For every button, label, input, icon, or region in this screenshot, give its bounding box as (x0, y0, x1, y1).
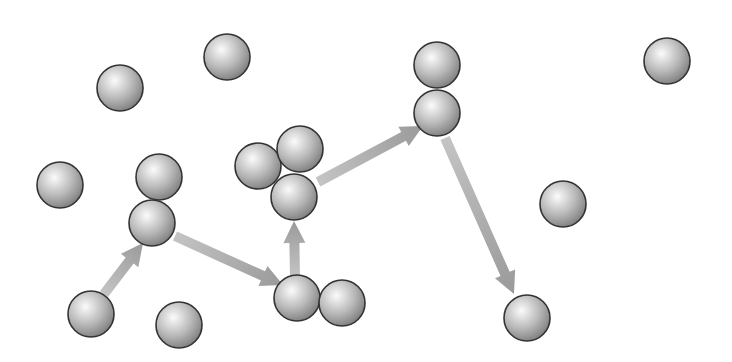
sphere-particle (644, 38, 690, 84)
sphere-particle (204, 34, 250, 80)
sphere-particle (235, 143, 281, 189)
sphere-particle (504, 295, 550, 341)
sphere-particle (274, 275, 320, 321)
arrow (170, 226, 287, 295)
arrow (435, 134, 524, 299)
sphere-particle (414, 90, 460, 136)
sphere-particle (156, 302, 202, 348)
sphere-particle (97, 65, 143, 111)
arrow (283, 221, 306, 277)
sphere-particle (136, 154, 182, 200)
sphere-particle (271, 174, 317, 220)
sphere-particle (540, 181, 586, 227)
particle-path-diagram (0, 0, 732, 362)
sphere-particle (414, 42, 460, 88)
sphere-particle (37, 162, 83, 208)
sphere-particle (277, 126, 323, 172)
sphere-particle (319, 280, 365, 326)
diagram-canvas (0, 0, 732, 362)
arrow (95, 236, 151, 300)
arrow (313, 116, 428, 191)
sphere-particle (129, 200, 175, 246)
sphere-particle (68, 291, 114, 337)
sphere-layer (37, 34, 690, 348)
